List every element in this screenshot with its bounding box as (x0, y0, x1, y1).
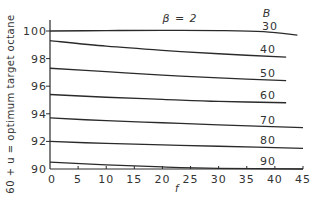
x-tick-label: 45 (295, 173, 311, 186)
curve-beta-50 (50, 68, 286, 80)
x-axis-label: f (175, 183, 180, 194)
x-tick-label: 25 (183, 173, 199, 186)
curve-label-70: 70 (260, 114, 276, 127)
curve-beta-60 (50, 94, 286, 102)
x-tick-label: 35 (239, 173, 255, 186)
curve-label-80: 80 (260, 134, 276, 147)
x-tick-label: 5 (74, 173, 82, 186)
curve-beta-30 (50, 30, 297, 35)
curve-label-30: 30 (262, 20, 278, 33)
curve-label-50: 50 (260, 67, 276, 80)
y-tick-label: 100 (23, 25, 47, 38)
x-tick-label: 40 (267, 173, 283, 186)
x-tick-label: 10 (98, 173, 114, 186)
y-tick-label: 98 (31, 53, 47, 66)
x-tick-label: 15 (126, 173, 142, 186)
y-tick-label: 96 (31, 80, 47, 93)
curve-label-90: 90 (260, 155, 276, 168)
x-tick-label: 0 (48, 173, 56, 186)
y-tick-label: 92 (31, 135, 47, 148)
legend-title: B (263, 7, 272, 20)
y-axis-label: 60 + u = optimum target octane (5, 14, 16, 193)
x-tick-label: 30 (211, 173, 227, 186)
curve-beta-40 (50, 41, 286, 58)
y-tick-label: 94 (31, 108, 47, 121)
x-tick-label: 20 (154, 173, 170, 186)
curve-label-60: 60 (260, 89, 276, 102)
beta-annotation: β = 2 (161, 12, 197, 25)
curve-label-40: 40 (260, 43, 276, 56)
y-tick-label: 90 (31, 163, 47, 176)
octane-line-chart: 909294969810005101520253035404560 + u = … (0, 0, 326, 204)
